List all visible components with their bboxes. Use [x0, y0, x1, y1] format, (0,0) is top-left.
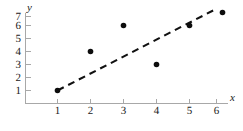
x-tick-label: 4 [154, 105, 160, 117]
y-tick-label: 7 [16, 11, 22, 23]
x-tick-label: 1 [55, 105, 61, 117]
y-tick-label: 3 [16, 59, 22, 71]
data-point [55, 88, 61, 94]
data-point [220, 10, 226, 16]
data-point [121, 23, 127, 29]
x-tick-label: 3 [121, 105, 127, 117]
y-tick-label: 4 [16, 46, 22, 58]
x-axis-label: x [229, 91, 235, 103]
scatter-plot-figure: 1 2 3 4 5 6 7 1 2 3 4 5 6 y x [0, 0, 243, 131]
plot-canvas: 1 2 3 4 5 6 7 1 2 3 4 5 6 y x [0, 0, 243, 131]
y-tick-label: 2 [16, 72, 22, 84]
y-axis-tick-labels: 1 2 3 4 5 6 7 [16, 11, 22, 97]
data-point [88, 49, 94, 55]
x-tick-label: 6 [214, 105, 220, 117]
y-axis-label: y [26, 1, 32, 13]
x-tick-label: 2 [88, 105, 94, 117]
data-point [154, 62, 160, 68]
x-tick-label: 5 [187, 105, 193, 117]
data-point [187, 23, 193, 29]
y-tick-label: 1 [16, 85, 22, 97]
y-tick-label: 5 [16, 33, 22, 45]
